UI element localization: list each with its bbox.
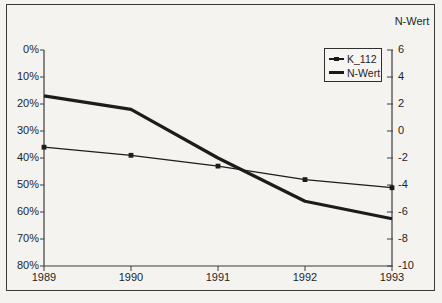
- left-axis-tick-label: 50%: [0, 178, 39, 191]
- right-axis-tick-label: 2: [398, 97, 434, 110]
- x-axis-tick-label: 1990: [109, 271, 153, 284]
- right-axis-tick-label: -6: [398, 205, 434, 218]
- left-axis-tick-label: 20%: [0, 97, 39, 110]
- series-line-n-wert: [44, 96, 392, 219]
- data-point-marker: [303, 177, 308, 182]
- x-axis-tick-label: 1992: [283, 271, 327, 284]
- left-axis-tick-label: 0%: [0, 43, 39, 56]
- data-point-marker: [129, 153, 134, 158]
- right-axis-tick-label: -4: [398, 178, 434, 191]
- legend-entry-nwert: N-Wert: [329, 66, 381, 80]
- left-axis-tick-label: 70%: [0, 232, 39, 245]
- right-axis-tick-label: -8: [398, 232, 434, 245]
- x-axis-tick-label: 1989: [22, 271, 66, 284]
- right-axis-title: N-Wert: [386, 15, 438, 27]
- right-axis-tick-label: -2: [398, 151, 434, 164]
- data-point-marker: [390, 185, 395, 190]
- legend-label: N-Wert: [347, 67, 380, 79]
- right-axis-tick-label: 4: [398, 70, 434, 83]
- right-axis-tick-label: 0: [398, 124, 434, 137]
- left-axis-tick-label: 40%: [0, 151, 39, 164]
- left-axis-tick-label: 10%: [0, 70, 39, 83]
- x-axis-tick-label: 1991: [196, 271, 240, 284]
- data-point-marker: [216, 164, 221, 169]
- plot-area: [0, 0, 442, 303]
- data-point-marker: [42, 145, 47, 150]
- left-axis-tick-label: 30%: [0, 124, 39, 137]
- legend-entry-k112: K_112: [329, 52, 381, 66]
- chart-figure: 0% 10% 20% 30% 40% 50% 60% 70% 80% 6 4 2…: [0, 0, 442, 303]
- legend: K_112 N-Wert: [324, 48, 382, 82]
- nwert-line-icon: [329, 66, 344, 80]
- x-axis-tick-label: 1993: [370, 271, 414, 284]
- legend-label: K_112: [347, 53, 377, 65]
- right-axis-tick-label: 6: [398, 43, 434, 56]
- k112-line-marker-icon: [329, 52, 344, 66]
- left-axis-tick-label: 60%: [0, 205, 39, 218]
